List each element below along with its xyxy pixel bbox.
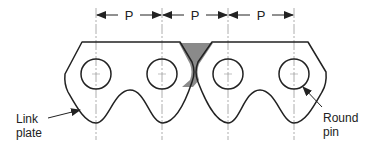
pitch-label-1: P bbox=[125, 8, 134, 23]
link-plate-label-line2: plate bbox=[16, 126, 42, 140]
chain-link-diagram: P P P Link plate Round pin bbox=[0, 0, 379, 153]
round-pin-label-line2: pin bbox=[323, 125, 339, 139]
pitch-label-2: P bbox=[191, 8, 200, 23]
pitch-label-3: P bbox=[257, 8, 266, 23]
link-plate-leader bbox=[48, 110, 80, 118]
link-plate-label-line1: Link bbox=[16, 112, 39, 126]
round-pin-label-line1: Round bbox=[323, 111, 358, 125]
